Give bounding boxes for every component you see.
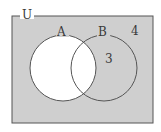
set-b-label: B (98, 25, 107, 39)
set-a-label: A (56, 25, 66, 39)
venn-diagram: U A B 4 3 (0, 0, 161, 132)
b-only-region-value: 3 (105, 52, 113, 66)
outside-region-value: 4 (131, 24, 139, 38)
universe-label: U (22, 8, 32, 22)
